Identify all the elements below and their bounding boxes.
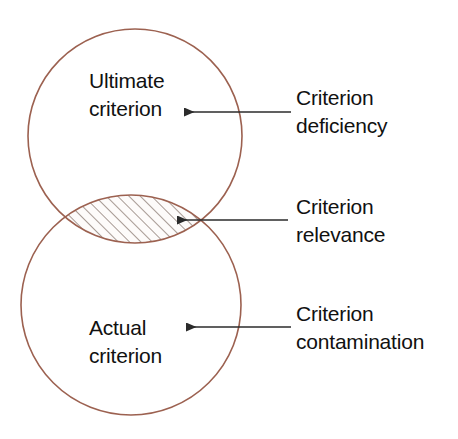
ultimate-criterion-label-line1: Ultimate [89, 69, 164, 92]
actual-criterion-label-line2: criterion [89, 344, 162, 367]
criterion-relevance-label-line2: relevance [296, 223, 385, 246]
callout-criterion-contamination: Criterion contamination [186, 302, 424, 353]
callout-criterion-relevance: Criterion relevance [177, 195, 385, 246]
ultimate-criterion-label-line2: criterion [89, 97, 162, 120]
actual-criterion-label-line1: Actual [89, 316, 146, 339]
venn-diagram-figure: Ultimate criterion Actual criterion Crit… [0, 0, 458, 439]
callout-criterion-deficiency: Criterion deficiency [184, 86, 388, 137]
actual-criterion-label: Actual criterion [89, 316, 162, 367]
venn-diagram-canvas: Ultimate criterion Actual criterion Crit… [0, 0, 458, 439]
criterion-contamination-label-line1: Criterion [296, 302, 374, 325]
criterion-relevance-label-line1: Criterion [296, 195, 374, 218]
criterion-deficiency-label-line2: deficiency [296, 114, 388, 137]
criterion-deficiency-label-line1: Criterion [296, 86, 374, 109]
criterion-contamination-label-line2: contamination [296, 330, 424, 353]
ultimate-criterion-label: Ultimate criterion [89, 69, 164, 120]
